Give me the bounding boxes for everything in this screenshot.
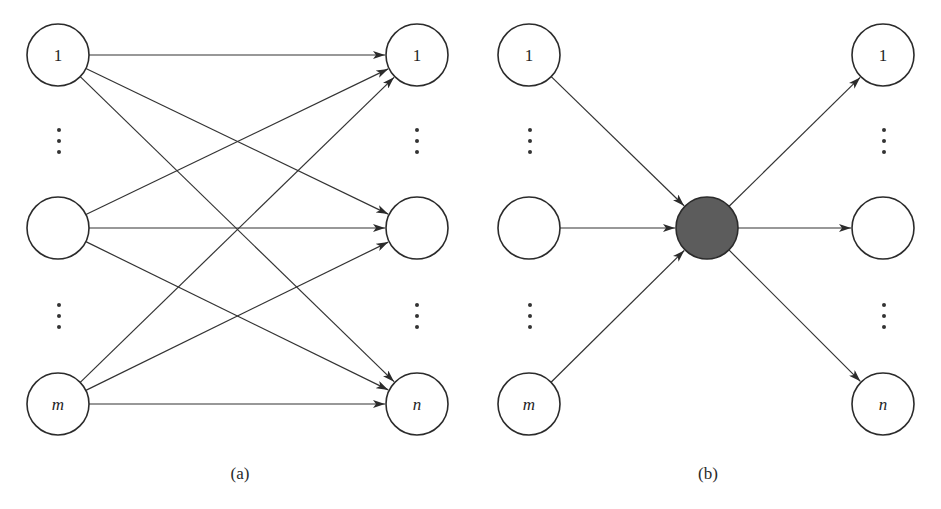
- arrow-Lm-to-HUB: [551, 250, 684, 382]
- node-label: 1: [54, 46, 63, 65]
- hub-node: [676, 197, 738, 259]
- network-diagram: 1m1n (a) 1m1n (b): [0, 0, 941, 509]
- vertical-ellipsis-icon: [415, 128, 419, 154]
- node-Lmid: [27, 197, 89, 259]
- panel-a-direct-network: 1m1n (a): [27, 24, 448, 483]
- node-label: 1: [413, 46, 422, 65]
- vertical-ellipsis-icon: [57, 128, 61, 154]
- node-R1: 1: [386, 24, 448, 86]
- node-Rn: n: [386, 373, 448, 435]
- arrow-HUB-to-Rn: [729, 250, 860, 381]
- vertical-ellipsis-icon: [528, 303, 532, 329]
- node-label: 1: [525, 46, 534, 65]
- node-Rmid: [386, 197, 448, 259]
- node-Lm: m: [27, 373, 89, 435]
- node-L1: 1: [27, 24, 89, 86]
- node-label: m: [52, 395, 64, 414]
- node-Lmid: [498, 197, 560, 259]
- panel-b-hub-network: 1m1n (b): [498, 24, 914, 483]
- node-Rmid: [852, 197, 914, 259]
- node-label: n: [879, 395, 888, 414]
- node-L1: 1: [498, 24, 560, 86]
- node-label: n: [413, 395, 422, 414]
- node-label: 1: [879, 46, 888, 65]
- vertical-ellipsis-icon: [528, 128, 532, 154]
- node-Rn: n: [852, 373, 914, 435]
- edge-group: [80, 55, 394, 404]
- node-R1: 1: [852, 24, 914, 86]
- node-label: m: [523, 395, 535, 414]
- caption-b: (b): [698, 464, 718, 483]
- vertical-ellipsis-icon: [57, 303, 61, 329]
- vertical-ellipsis-icon: [415, 303, 419, 329]
- arrow-HUB-to-R1: [729, 77, 860, 206]
- node-Lm: m: [498, 373, 560, 435]
- caption-a: (a): [231, 464, 250, 483]
- arrow-L1-to-HUB: [551, 77, 684, 206]
- vertical-ellipsis-icon: [882, 303, 886, 329]
- vertical-ellipsis-icon: [882, 128, 886, 154]
